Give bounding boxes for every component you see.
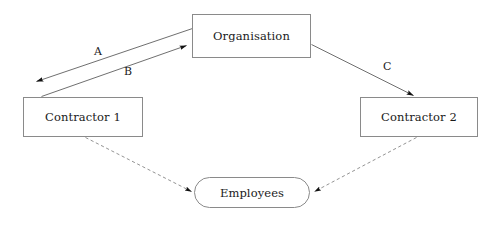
edge-label-c: C [383, 61, 391, 72]
edge-contractor2-employees-line [315, 138, 417, 192]
node-organisation[interactable]: Organisation [192, 14, 311, 58]
edge-label-b: B [124, 66, 132, 77]
node-contractor-2-label: Contractor 2 [381, 110, 457, 124]
edge-a-line [37, 29, 193, 82]
diagram-canvas: Organisation Contractor 1 Contractor 2 E… [0, 0, 496, 225]
edge-contractor1-employees-line [86, 138, 192, 192]
node-contractor-1-label: Contractor 1 [45, 110, 121, 124]
edge-label-a: A [94, 46, 102, 57]
node-contractor-2[interactable]: Contractor 2 [360, 97, 478, 137]
node-contractor-1[interactable]: Contractor 1 [23, 97, 143, 137]
edge-b-line [42, 46, 187, 97]
node-employees[interactable]: Employees [194, 177, 310, 208]
node-organisation-label: Organisation [213, 29, 290, 43]
edge-c-line [312, 45, 414, 96]
node-employees-label: Employees [220, 186, 284, 200]
